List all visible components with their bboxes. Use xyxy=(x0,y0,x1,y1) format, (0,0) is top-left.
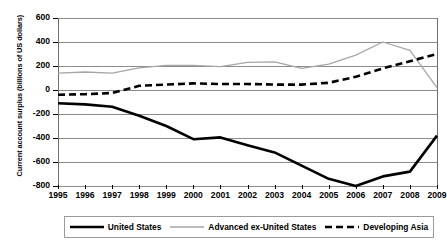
x-tick-mark-2005 xyxy=(329,185,330,189)
x-tick-mark-2008 xyxy=(410,185,411,189)
x-tick-label-2002: 2002 xyxy=(238,190,257,200)
legend-swatch-dashed xyxy=(325,223,359,231)
legend-label: Advanced ex-United States xyxy=(208,222,316,232)
y-tick-label-0: 0 xyxy=(6,84,50,94)
series-line-developing-asia xyxy=(58,54,437,95)
legend-entry-developing-asia[interactable]: Developing Asia xyxy=(325,222,428,232)
y-tick-label--200: -200 xyxy=(6,108,50,118)
x-tick-label-2003: 2003 xyxy=(265,190,284,200)
y-tick-label-200: 200 xyxy=(6,60,50,70)
plot-frame-right-edge xyxy=(437,18,438,186)
legend-label: Developing Asia xyxy=(363,222,428,232)
x-tick-label-1998: 1998 xyxy=(130,190,149,200)
x-tick-mark-2000 xyxy=(193,185,194,189)
x-tick-mark-1995 xyxy=(58,185,59,189)
x-tick-label-1996: 1996 xyxy=(76,190,95,200)
x-tick-label-2006: 2006 xyxy=(346,190,365,200)
y-axis-tick-group: -800-600-400-2000200400600 xyxy=(0,0,58,245)
y-tick-label--800: -800 xyxy=(6,180,50,190)
x-tick-mark-2002 xyxy=(248,185,249,189)
x-tick-label-2007: 2007 xyxy=(373,190,392,200)
x-tick-label-2001: 2001 xyxy=(211,190,230,200)
y-tick-label-400: 400 xyxy=(6,36,50,46)
legend-entry-advanced-ex-united-states[interactable]: Advanced ex-United States xyxy=(170,222,316,232)
chart-legend: United StatesAdvanced ex-United StatesDe… xyxy=(64,216,434,238)
x-tick-mark-2007 xyxy=(383,185,384,189)
x-axis-tick-group: 1995199619971998199920002001200220032004… xyxy=(58,188,437,208)
y-tick-label--600: -600 xyxy=(6,156,50,166)
series-line-united-states xyxy=(58,103,437,186)
legend-swatch-solid-thin xyxy=(170,223,204,231)
x-tick-mark-2006 xyxy=(356,185,357,189)
x-tick-label-1999: 1999 xyxy=(157,190,176,200)
x-tick-mark-2004 xyxy=(302,185,303,189)
x-tick-mark-1997 xyxy=(112,185,113,189)
y-tick-label-600: 600 xyxy=(6,12,50,22)
x-tick-label-1995: 1995 xyxy=(48,190,67,200)
x-tick-label-2008: 2008 xyxy=(400,190,419,200)
x-tick-mark-1996 xyxy=(85,185,86,189)
x-tick-label-1997: 1997 xyxy=(103,190,122,200)
legend-entry-united-states[interactable]: United States xyxy=(70,222,162,232)
x-tick-mark-2009 xyxy=(437,185,438,189)
x-tick-mark-2001 xyxy=(220,185,221,189)
legend-label: United States xyxy=(108,222,162,232)
plot-area xyxy=(58,18,437,186)
series-line-advanced-ex-united-states xyxy=(58,42,437,88)
x-tick-label-2004: 2004 xyxy=(292,190,311,200)
legend-swatch-solid-thick xyxy=(70,223,104,231)
series-group xyxy=(58,18,437,186)
x-tick-label-2005: 2005 xyxy=(319,190,338,200)
y-tick-label--400: -400 xyxy=(6,132,50,142)
x-tick-label-2009: 2009 xyxy=(427,190,446,200)
x-tick-mark-1998 xyxy=(139,185,140,189)
x-tick-mark-1999 xyxy=(166,185,167,189)
x-tick-mark-2003 xyxy=(275,185,276,189)
x-tick-label-2000: 2000 xyxy=(184,190,203,200)
